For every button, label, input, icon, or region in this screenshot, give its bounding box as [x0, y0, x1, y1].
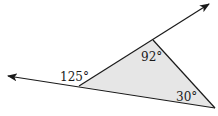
triangle-diagram: 125° 92° 30°	[0, 0, 218, 116]
right-angle-label: 30°	[176, 90, 197, 104]
top-angle-label: 92°	[141, 50, 162, 64]
exterior-angle-label: 125°	[60, 70, 89, 84]
